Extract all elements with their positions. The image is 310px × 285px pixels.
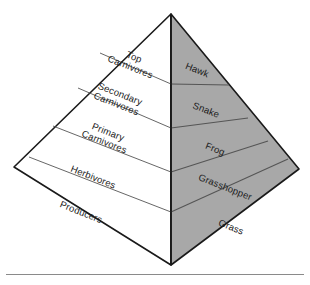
label-grass-text: Grass (217, 217, 245, 237)
pyramid-svg: Top Carnivores Secondary Carnivores Prim… (0, 0, 310, 285)
label-grass: Grass (217, 217, 245, 237)
energy-pyramid-figure: Top Carnivores Secondary Carnivores Prim… (0, 0, 310, 285)
